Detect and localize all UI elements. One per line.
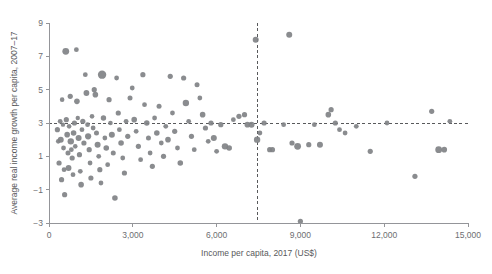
data-point	[106, 97, 111, 102]
data-point	[105, 162, 110, 167]
data-point	[134, 129, 139, 134]
data-point	[112, 195, 118, 201]
data-point	[71, 130, 77, 136]
data-point	[136, 144, 141, 149]
data-point	[195, 82, 200, 87]
data-point	[85, 122, 90, 127]
data-point	[81, 140, 86, 145]
x-tick-label: 0	[47, 230, 52, 240]
data-point	[108, 121, 113, 126]
data-point	[74, 99, 80, 105]
data-point	[138, 157, 143, 162]
data-point	[306, 142, 311, 147]
data-point	[64, 132, 70, 138]
data-point	[343, 131, 348, 136]
data-point	[109, 132, 115, 138]
data-point	[122, 170, 127, 175]
data-point	[70, 155, 75, 160]
x-tick-label: 12,000	[371, 230, 397, 240]
data-point	[97, 167, 102, 172]
data-point	[62, 48, 69, 55]
data-point	[91, 126, 96, 131]
plot-canvas: −3−113579 03,0006,0009,00012,00015,000 I…	[0, 0, 492, 274]
data-point	[116, 110, 121, 115]
data-point	[154, 130, 160, 136]
data-point	[80, 127, 85, 132]
data-point	[124, 119, 129, 124]
data-point	[337, 127, 342, 132]
data-point	[286, 32, 292, 38]
data-point	[140, 72, 145, 77]
data-point	[77, 152, 82, 157]
data-point	[83, 72, 88, 77]
data-point	[101, 115, 106, 120]
data-point	[163, 124, 168, 129]
x-tick-label: 9,000	[290, 230, 312, 240]
data-point	[128, 96, 133, 101]
y-tick-label: 7	[38, 51, 43, 61]
data-point	[152, 116, 157, 121]
data-point	[56, 160, 61, 165]
data-point	[102, 136, 107, 141]
data-point	[447, 119, 452, 124]
data-point	[168, 74, 173, 79]
y-axis-ticks: −3−113579	[33, 18, 49, 228]
data-point	[58, 137, 64, 143]
data-point	[59, 177, 64, 182]
data-point	[208, 120, 213, 125]
data-point	[441, 147, 447, 153]
y-tick-label: 1	[38, 151, 43, 161]
data-point	[80, 119, 85, 124]
data-point	[249, 122, 255, 128]
data-point	[326, 112, 332, 118]
scatter-chart: −3−113579 03,0006,0009,00012,00015,000 I…	[0, 0, 492, 274]
y-tick-label: −1	[33, 185, 43, 195]
data-point	[289, 140, 294, 145]
data-point	[231, 117, 236, 122]
data-point	[94, 131, 99, 136]
data-point	[261, 120, 266, 125]
data-point	[62, 192, 67, 197]
data-point	[200, 112, 206, 118]
data-point	[186, 119, 191, 124]
data-point	[67, 124, 72, 129]
data-point	[236, 114, 241, 119]
data-point	[85, 133, 91, 139]
data-point	[99, 181, 104, 186]
data-point	[435, 146, 442, 153]
data-point	[281, 122, 286, 127]
data-point	[64, 117, 69, 122]
data-points-layer	[55, 32, 452, 224]
data-point	[354, 124, 359, 129]
data-point	[218, 122, 223, 127]
data-point	[211, 135, 217, 141]
data-point	[177, 160, 183, 166]
data-point	[118, 140, 124, 146]
data-point	[71, 172, 76, 177]
data-point	[120, 156, 125, 161]
data-point	[175, 146, 180, 151]
data-point	[66, 165, 72, 171]
data-point	[170, 111, 175, 116]
data-point	[92, 87, 97, 92]
data-point	[125, 134, 130, 139]
data-point	[294, 143, 301, 150]
data-point	[253, 37, 259, 43]
y-tick-label: −3	[33, 218, 43, 228]
data-point	[270, 147, 275, 152]
data-point	[68, 94, 73, 99]
data-point	[84, 90, 90, 96]
x-axis-ticks: 03,0006,0009,00012,00015,000	[47, 223, 482, 240]
data-point	[61, 146, 66, 151]
data-point	[93, 92, 99, 98]
data-point	[76, 116, 80, 120]
data-point	[258, 131, 263, 136]
data-point	[144, 120, 150, 126]
x-axis-title: Income per capita, 2017 (US$)	[201, 248, 317, 258]
data-point	[117, 127, 122, 132]
data-point	[61, 122, 65, 126]
data-point	[312, 122, 317, 127]
y-tick-label: 9	[38, 18, 43, 28]
data-point	[203, 125, 208, 130]
data-point	[55, 127, 60, 132]
